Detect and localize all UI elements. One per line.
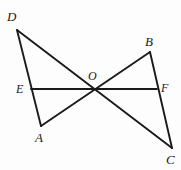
vertex-label-B: B: [145, 35, 153, 48]
point-label-E: E: [16, 83, 23, 95]
point-label-O: O: [88, 70, 97, 82]
vertex-label-D: D: [7, 10, 16, 23]
vertex-label-C: C: [166, 153, 175, 166]
point-label-F: F: [161, 82, 168, 94]
geometry-figure: D B E O F A C: [0, 0, 181, 170]
geometry-diagram-svg: [0, 0, 181, 170]
vertex-label-A: A: [35, 131, 43, 144]
